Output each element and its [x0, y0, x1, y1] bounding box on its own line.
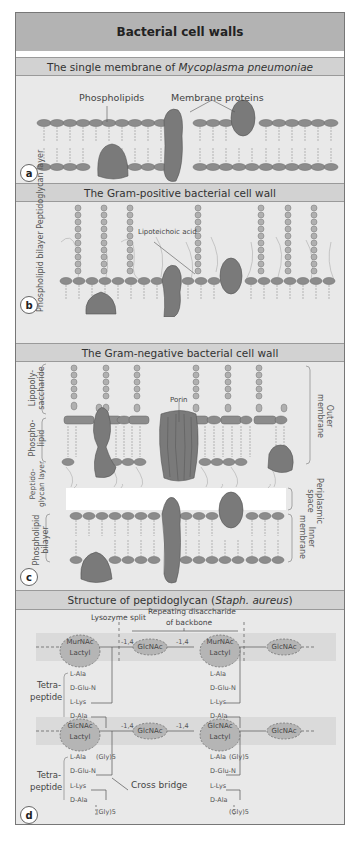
peptidoglycan-layer-label: Peptido- glycan layer — [28, 458, 46, 510]
murnac-1: MurNAc — [64, 638, 96, 646]
l-lys: L-Lys — [70, 782, 86, 790]
glcnac-1: GlcNAc — [134, 643, 166, 651]
tetrapeptide-label-2: Tetra- — [37, 770, 61, 780]
tetrapeptide-label-1b: peptide — [30, 692, 62, 702]
gly5: (Gly)5 — [229, 753, 249, 761]
phospholipid-label: Phospho- lipid — [28, 416, 46, 460]
gram-positive-diagram — [16, 202, 346, 317]
l-ala: L-Ala — [210, 753, 226, 761]
tetrapeptide-label-2b: peptide — [30, 782, 62, 792]
d-ala: D-Ala — [70, 796, 87, 804]
d-glu-n: D-Glu-N — [210, 684, 236, 692]
glcnac-3: GlcNAc — [64, 722, 96, 730]
d-glu-n: D-Glu-N — [70, 767, 96, 775]
panel-a-heading: The single membrane of Mycoplasma pneumo… — [16, 57, 344, 76]
d-glu-n: D-Glu-N — [70, 684, 96, 692]
heading-species: Staph. aureus — [215, 594, 288, 606]
glcnac-6: GlcNAc — [268, 727, 300, 735]
panel-b-heading: The Gram-positive bacterial cell wall — [16, 183, 344, 202]
cross-bridge-label: Cross bridge — [131, 780, 187, 790]
bond-label: -1,4 — [121, 722, 134, 730]
d-ala: D-Ala — [70, 712, 87, 720]
heading-text: The single membrane of — [47, 61, 175, 73]
panel-badge-c: c — [20, 568, 38, 586]
glcnac-2: GlcNAc — [268, 643, 300, 651]
lactyl-2: Lactyl — [204, 649, 236, 657]
d-ala: D-Ala — [210, 712, 227, 720]
glcnac-4: GlcNAc — [134, 727, 166, 735]
murnac-2: MurNAc — [204, 638, 236, 646]
porin-label: Porin — [170, 396, 188, 404]
inner-membrane-proteins — [81, 492, 243, 583]
inner-membrane-label: Inner membrane — [298, 512, 316, 562]
l-lys: L-Lys — [210, 782, 226, 790]
membrane-proteins — [86, 258, 242, 317]
peptidoglycan-layer-label: Peptidoglycan layer — [36, 150, 45, 229]
l-lys: L-Lys — [70, 698, 86, 706]
outer-membrane-label: Outer membrane — [316, 386, 334, 446]
panel-b-gram-positive: Lipoteichoic acid Phospholipid bilayer P… — [16, 202, 344, 317]
panel-badge-d: d — [20, 806, 38, 824]
panel-a-mycoplasma-membrane: Phospholipids Membrane proteins a — [16, 76, 344, 183]
lysozyme-split-label: Lysozyme split — [91, 613, 146, 622]
l-ala: L-Ala — [70, 670, 86, 678]
lipoteichoic-acid-label: Lipoteichoic acid — [138, 228, 197, 236]
d-ala: D-Ala — [210, 796, 227, 804]
lipopolysaccharide-label: Lipopoly- saccharide — [28, 366, 46, 410]
heading-suffix: ) — [288, 594, 292, 606]
panel-d-peptidoglycan: Lysozyme split Repeating disaccharide of… — [16, 610, 344, 826]
of-backbone-label: of backbone — [166, 618, 212, 627]
bond-label: -1,4 — [121, 638, 134, 646]
l-ala: L-Ala — [70, 753, 86, 761]
gly5: (Gly)5 — [96, 808, 116, 816]
repeating-disaccharide-label: Repeating disaccharide — [148, 607, 236, 616]
figure-frame: Bacterial cell walls The single membrane… — [15, 12, 345, 825]
phospholipids-label: Phospholipids — [79, 92, 144, 103]
heading-species: Mycoplasma pneumoniae — [179, 61, 314, 73]
glcnac-5: GlcNAc — [204, 722, 236, 730]
inner-membrane-diagram — [16, 484, 346, 590]
l-ala: L-Ala — [210, 670, 226, 678]
membrane-proteins-label: Membrane proteins — [171, 92, 264, 103]
panel-c-heading: The Gram-negative bacterial cell wall — [16, 343, 344, 362]
phospholipid-bilayer-label: Phospholipid bilayer — [36, 231, 45, 312]
panel-c-gram-negative: Porin Lipopoly- saccharide Phospho- lipi… — [16, 362, 344, 484]
gly5: (Gly)5 — [229, 808, 249, 816]
gly5: (Gly)5 — [96, 753, 116, 761]
peptidoglycan-phospholipid-side-label: Phospholipid bilayer Peptidoglycan layer — [36, 202, 45, 312]
lactyl-4: Lactyl — [204, 733, 236, 741]
tetrapeptide-label-1: Tetra- — [37, 680, 61, 690]
l-lys: L-Lys — [210, 698, 226, 706]
panel-c-lower: Phospholipid bilayer Peptido- glycan lay… — [16, 484, 344, 590]
lactyl-3: Lactyl — [64, 733, 96, 741]
phospholipid-bilayer-label: Phospholipid bilayer — [32, 514, 50, 566]
bond-label: -1,4 — [176, 638, 189, 646]
lactyl-1: Lactyl — [64, 649, 96, 657]
heading-text: Structure of peptidoglycan ( — [68, 594, 216, 606]
figure-title: Bacterial cell walls — [16, 13, 344, 51]
bond-label: -1,4 — [176, 722, 189, 730]
bilayer-top — [37, 120, 338, 171]
d-glu-n: D-Glu-N — [210, 767, 236, 775]
panel-badge-b: b — [20, 296, 38, 314]
